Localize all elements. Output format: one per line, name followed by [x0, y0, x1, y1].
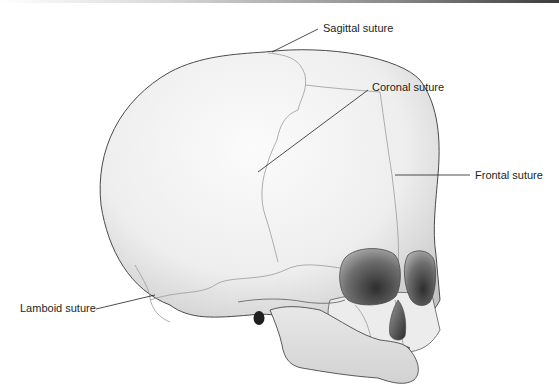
label-lamboid-suture: Lamboid suture: [20, 302, 96, 315]
sagittal-leader: [272, 29, 318, 52]
label-sagittal-suture: Sagittal suture: [323, 22, 393, 35]
label-coronal-suture: Coronal suture: [372, 81, 444, 94]
skull-diagram: [0, 0, 559, 389]
left-orbit: [340, 249, 401, 305]
ear-canal: [254, 311, 265, 325]
label-frontal-suture: Frontal suture: [475, 169, 543, 182]
lamboid-leader: [96, 295, 155, 309]
